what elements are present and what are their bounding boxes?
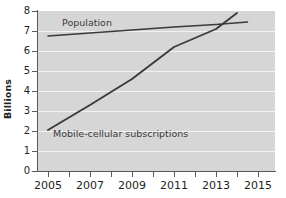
y-tick: [32, 111, 37, 112]
y-tick-label: 8: [12, 5, 30, 16]
y-tick: [32, 151, 37, 152]
y-tick-label: 0: [12, 165, 30, 176]
y-tick-label: 5: [12, 65, 30, 76]
x-tick: [195, 172, 196, 177]
x-tick: [90, 172, 91, 177]
x-tick: [111, 172, 112, 177]
x-tick: [153, 172, 154, 177]
gridline: [38, 91, 275, 92]
y-tick: [32, 131, 37, 132]
y-tick: [32, 51, 37, 52]
annotation-population: Population: [62, 17, 112, 28]
gridline: [38, 31, 275, 32]
x-tick-label: 2015: [238, 179, 278, 192]
x-tick-label: 2011: [154, 179, 194, 192]
x-tick: [174, 172, 175, 177]
annotation-mobile-cellular-subscriptions: Mobile-cellular subscriptions: [53, 128, 188, 139]
x-tick: [48, 172, 49, 177]
y-tick-label: 3: [12, 105, 30, 116]
x-tick: [216, 172, 217, 177]
x-tick-label: 2013: [196, 179, 236, 192]
y-tick: [32, 71, 37, 72]
y-axis-line: [37, 10, 38, 172]
x-tick: [69, 172, 70, 177]
y-tick: [32, 91, 37, 92]
x-tick-label: 2005: [28, 179, 68, 192]
y-tick: [32, 171, 37, 172]
y-tick: [32, 31, 37, 32]
x-axis-line: [36, 171, 276, 172]
x-tick: [258, 172, 259, 177]
gridline: [38, 151, 275, 152]
gridline: [38, 51, 275, 52]
y-tick: [32, 11, 37, 12]
x-tick: [132, 172, 133, 177]
y-tick-label: 6: [12, 45, 30, 56]
x-tick-label: 2007: [70, 179, 110, 192]
chart-screenshot: Billions 8 7 6 5 4 3 2 1 0 2005 2007 200…: [0, 0, 286, 198]
gridline: [38, 111, 275, 112]
plot-area: [38, 11, 275, 171]
y-tick-label: 1: [12, 145, 30, 156]
x-tick: [237, 172, 238, 177]
gridline: [38, 71, 275, 72]
y-tick-label: 2: [12, 125, 30, 136]
x-tick-label: 2009: [112, 179, 152, 192]
y-tick-label: 4: [12, 85, 30, 96]
y-tick-label: 7: [12, 25, 30, 36]
